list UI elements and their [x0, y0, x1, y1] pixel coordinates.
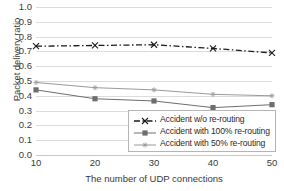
y-tick-label: 0.3 — [8, 106, 32, 116]
chart-legend: Accident w/o re-routingAccident with 100… — [128, 110, 276, 152]
small-cross-marker — [92, 85, 97, 90]
small-cross-marker — [269, 93, 274, 98]
legend-item-label: Accident with 100% re-routing — [158, 126, 270, 136]
x-axis-tick-labels: 1020304050 — [36, 157, 272, 171]
series-line-1 — [36, 45, 272, 53]
packet-delivery-ratio-chart: Packet delivery ratio 0.00.10.20.30.40.5… — [0, 0, 284, 191]
x-tick-label: 30 — [134, 157, 174, 168]
legend-item[interactable]: Accident with 50% re-routing — [132, 137, 273, 149]
small-cross-icon — [132, 137, 158, 149]
legend-item[interactable]: Accident w/o re-routing — [132, 113, 273, 125]
legend-item[interactable]: Accident with 100% re-routing — [132, 125, 273, 137]
y-tick-label: 0.2 — [8, 120, 32, 130]
filled-square-marker — [33, 87, 38, 92]
x-axis-title: The number of UDP connections — [36, 173, 272, 184]
y-tick-label: 0.8 — [8, 32, 32, 42]
gridline — [36, 155, 272, 156]
small-cross-marker — [142, 142, 147, 147]
small-cross-marker — [151, 87, 156, 92]
y-tick-label: 1.0 — [8, 2, 32, 12]
filled-square-marker — [269, 102, 274, 107]
x-mark-icon — [132, 113, 158, 125]
y-tick-label: 0.4 — [8, 91, 32, 101]
filled-square-marker — [142, 130, 147, 135]
y-tick-label: 0.9 — [8, 17, 32, 27]
y-tick-label: 0.7 — [8, 46, 32, 56]
y-tick-label: 0.6 — [8, 61, 32, 71]
x-tick-label: 50 — [252, 157, 284, 168]
y-tick-label: 0.1 — [8, 135, 32, 145]
legend-item-label: Accident w/o re-routing — [158, 114, 244, 124]
filled-square-marker — [92, 96, 97, 101]
filled-square-marker — [151, 98, 156, 103]
small-cross-marker — [210, 92, 215, 97]
y-tick-label: 0.5 — [8, 76, 32, 86]
small-cross-marker — [33, 80, 38, 85]
x-tick-label: 20 — [75, 157, 115, 168]
x-tick-label: 10 — [16, 157, 56, 168]
x-mark-marker — [92, 42, 98, 48]
x-tick-label: 40 — [193, 157, 233, 168]
legend-item-label: Accident with 50% re-routing — [158, 138, 265, 148]
filled-square-icon — [132, 125, 158, 137]
